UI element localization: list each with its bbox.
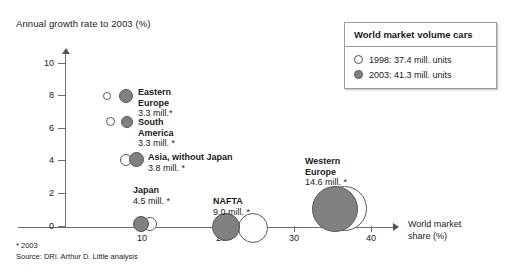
x-axis-title: World market share (%) <box>408 219 461 242</box>
bubble-1998-nafta <box>238 213 268 243</box>
point-label-eastern-europe-line2: Europe <box>138 98 173 109</box>
point-value-asia: 3.8 mill. * <box>148 163 233 174</box>
y-tick-label-8: 8 <box>24 90 54 100</box>
point-label-western-europe: Western Europe 14.6 mill. * <box>305 156 347 188</box>
bubble-2003-south-america <box>121 116 133 128</box>
legend-label-1998: 1998: 37.4 mill. units <box>369 55 452 65</box>
x-tick-30 <box>294 226 295 232</box>
y-axis-line <box>65 52 66 227</box>
point-label-south-america-line1: South <box>138 117 175 128</box>
footnote: * 2003 <box>16 241 38 250</box>
bubble-2003-western-europe <box>312 186 358 232</box>
point-label-asia-line1: Asia, without Japan <box>148 152 233 163</box>
point-value-nafta: 9.0 mill. * <box>213 207 250 218</box>
point-value-japan: 4.5 mill. * <box>133 196 170 207</box>
y-axis-arrow-icon <box>62 48 70 54</box>
y-tick-label-10: 10 <box>24 58 54 68</box>
legend: World market volume cars 1998: 37.4 mill… <box>344 22 497 89</box>
point-label-nafta: NAFTA 9.0 mill. * <box>213 196 250 217</box>
y-tick-label-0: 0 <box>24 221 54 231</box>
x-tick-label-10: 10 <box>130 233 154 243</box>
y-tick-4 <box>58 160 65 161</box>
point-label-japan: Japan 4.5 mill. * <box>133 185 170 206</box>
white-circle-icon <box>354 55 363 64</box>
point-label-south-america: South America 3.3 mill. * <box>138 117 175 149</box>
bubble-2003-asia <box>129 152 144 167</box>
point-label-asia: Asia, without Japan 3.8 mill. * <box>148 152 233 173</box>
source-note: Source: DRI. Arthur D. Little analysis <box>16 252 138 261</box>
y-tick-10 <box>58 63 65 64</box>
x-axis-title-line2: share (%) <box>408 231 461 243</box>
legend-label-2003: 2003: 41.3 mill. units <box>369 70 452 80</box>
point-label-eastern-europe: Eastern Europe 3.3 mill.* <box>138 87 173 119</box>
bubble-1998-south-america <box>106 117 115 126</box>
point-label-western-europe-line2: Europe <box>305 167 347 178</box>
y-tick-label-2: 2 <box>24 188 54 198</box>
legend-row-2003: 2003: 41.3 mill. units <box>354 67 488 82</box>
point-label-western-europe-line1: Western <box>305 156 347 167</box>
y-tick-2 <box>58 193 65 194</box>
x-axis-arrow-icon <box>393 223 399 231</box>
y-tick-8 <box>58 95 65 96</box>
point-label-japan-line1: Japan <box>133 185 170 196</box>
y-tick-label-6: 6 <box>24 123 54 133</box>
point-value-south-america: 3.3 mill. * <box>138 138 175 149</box>
y-tick-6 <box>58 128 65 129</box>
point-label-south-america-line2: America <box>138 128 175 139</box>
point-label-eastern-europe-line1: Eastern <box>138 87 173 98</box>
y-axis-title: Annual growth rate to 2003 (%) <box>16 18 151 29</box>
legend-row-1998: 1998: 37.4 mill. units <box>354 52 488 67</box>
grey-circle-icon <box>354 70 363 79</box>
x-tick-label-40: 40 <box>359 233 383 243</box>
legend-title: World market volume cars <box>345 23 496 47</box>
bubble-1998-eastern-europe <box>103 92 111 100</box>
point-label-nafta-line1: NAFTA <box>213 196 250 207</box>
bubble-2003-eastern-europe <box>119 89 133 103</box>
bubble-chart: Annual growth rate to 2003 (%) 10 8 6 4 … <box>0 0 510 277</box>
y-tick-0 <box>58 226 65 227</box>
bubble-2003-nafta <box>212 213 240 241</box>
y-tick-label-4: 4 <box>24 155 54 165</box>
legend-body: 1998: 37.4 mill. units 2003: 41.3 mill. … <box>345 47 496 88</box>
x-tick-40 <box>371 226 372 232</box>
bubble-2003-japan <box>133 216 149 232</box>
x-axis-title-line1: World market <box>408 219 461 231</box>
point-value-western-europe: 14.6 mill. * <box>305 177 347 188</box>
x-tick-label-30: 30 <box>282 233 306 243</box>
